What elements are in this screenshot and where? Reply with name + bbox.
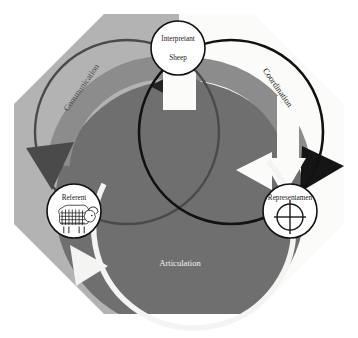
node-interpretant-circle[interactable] [151,21,205,75]
node-interpretant-sublabel: Sheep [169,54,187,62]
node-interpretant-label: Interpretant [161,35,195,43]
diagram-canvas: Communication Coordination Articulation … [0,0,358,338]
node-referent[interactable]: Referent [47,184,101,238]
relation-label-articulation: Articulation [159,258,201,268]
semiotic-triangle-diagram: Communication Coordination Articulation … [0,0,358,338]
node-referent-label: Referent [62,194,87,202]
node-interpretant[interactable]: Interpretant Sheep [151,21,205,75]
node-representamen[interactable]: Representamen [263,184,317,238]
